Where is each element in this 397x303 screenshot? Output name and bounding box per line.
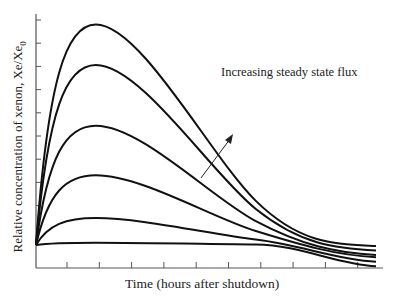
x-axis-label: Time (hours after shutdown): [125, 276, 279, 292]
curves: [36, 25, 376, 267]
y-axis-label: Relative concentration of xenon, Xe/Xe0: [10, 22, 28, 272]
axes: [36, 14, 383, 268]
chart-plot-area: [0, 0, 397, 303]
annotation-label: Increasing steady state flux: [221, 65, 357, 80]
